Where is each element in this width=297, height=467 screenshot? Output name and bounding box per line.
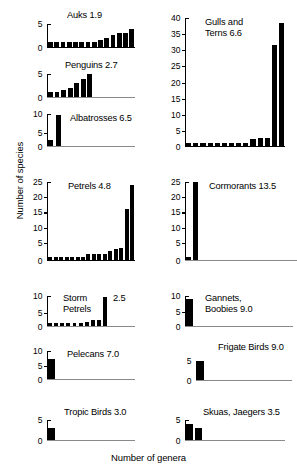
y-tick <box>182 197 186 198</box>
x-axis-line <box>185 440 285 441</box>
bar <box>123 33 128 47</box>
y-tick-label: 5 <box>187 357 192 366</box>
bar <box>104 38 109 47</box>
bar <box>60 323 64 326</box>
bar <box>92 42 97 47</box>
y-tick-label: 0 <box>38 94 43 103</box>
bar <box>117 33 122 47</box>
bar <box>193 143 198 146</box>
y-tick-label: 0 <box>176 257 181 266</box>
panel-petrels: Petrels 4.8 25 20 15 10 5 0 <box>47 182 135 261</box>
bar <box>279 23 284 146</box>
panel-title-skuas-jaegers: Skuas, Jaegers 3.5 <box>203 407 280 418</box>
x-axis-line <box>47 440 135 441</box>
bar <box>215 143 220 146</box>
y-tick-label: 0 <box>176 143 181 152</box>
x-axis-label: Number of genera <box>0 452 297 463</box>
bar <box>73 42 78 47</box>
bar <box>68 88 73 97</box>
y-tick-label: 5 <box>38 239 43 248</box>
bar <box>186 143 191 146</box>
bar <box>48 257 52 260</box>
y-tick <box>182 50 186 51</box>
x-axis-line <box>47 47 135 48</box>
panel-title-frigate-birds: Frigate Birds 9.0 <box>218 342 284 353</box>
panel-pelecans: Pelecans 7.0 10 5 0 <box>47 351 135 380</box>
bar <box>92 254 96 260</box>
bar <box>111 35 116 46</box>
y-tick <box>44 133 48 134</box>
bar <box>48 323 52 326</box>
bar <box>61 90 66 97</box>
y-tick-label: 20 <box>171 78 180 87</box>
bar <box>265 138 270 146</box>
bar <box>86 254 90 260</box>
y-tick-label: 5 <box>176 416 181 425</box>
y-tick-label: 0 <box>176 437 181 446</box>
bar <box>65 257 69 260</box>
plot-area-penguins: 5 0 <box>47 74 135 98</box>
y-tick-label: 10 <box>171 111 180 120</box>
x-axis-line <box>185 260 297 261</box>
seabird-species-per-genus-figure: Number of species Number of genera Auks … <box>0 0 297 467</box>
y-tick-label: 25 <box>171 62 180 71</box>
y-tick-label: 0 <box>38 257 43 266</box>
bar <box>48 359 55 378</box>
y-tick-label: 10 <box>33 110 42 119</box>
bar-group-petrels <box>48 182 134 260</box>
y-tick <box>182 34 186 35</box>
y-tick-label: 15 <box>33 208 42 217</box>
plot-area-auks: 5 0 <box>47 24 135 48</box>
y-tick-label: 5 <box>38 128 43 137</box>
y-tick <box>182 243 186 244</box>
bar <box>195 428 202 440</box>
y-tick-label: 0 <box>176 323 181 332</box>
plot-area-pelecans: 10 5 0 <box>47 351 135 380</box>
bar <box>54 257 58 260</box>
y-tick <box>182 312 186 313</box>
bar <box>250 139 255 145</box>
y-tick-label: 0 <box>38 44 43 53</box>
y-tick-label: 5 <box>38 70 43 79</box>
bar <box>91 320 95 325</box>
bar-group-tropic-birds <box>48 420 55 440</box>
plot-area-tropic-birds: 5 0 <box>47 420 135 441</box>
y-tick <box>182 228 186 229</box>
bar <box>222 143 227 146</box>
bar <box>79 323 83 326</box>
panel-title-penguins: Penguins 2.7 <box>65 60 117 71</box>
bar <box>85 322 89 326</box>
bar-group-gannets-boobies <box>186 296 193 326</box>
bar <box>200 143 205 146</box>
bar <box>87 74 92 97</box>
y-tick <box>44 228 48 229</box>
bar <box>56 115 61 145</box>
bar <box>48 428 55 440</box>
bar <box>208 143 213 146</box>
bar <box>129 29 134 47</box>
bar <box>236 143 241 146</box>
bar <box>103 254 107 260</box>
y-tick-label: 20 <box>171 193 180 202</box>
y-tick-label: 10 <box>33 223 42 232</box>
bar-group-penguins <box>48 74 92 97</box>
plot-area-cormorants: 25 20 15 10 5 0 <box>185 182 297 261</box>
y-tick-label: 40 <box>171 14 180 23</box>
bar-group-pelecans <box>48 351 55 379</box>
bar <box>81 257 85 260</box>
bar-group-skuas-jaegers <box>186 420 202 440</box>
bar <box>97 320 101 325</box>
bar <box>67 42 72 47</box>
y-tick-label: 5 <box>38 361 43 370</box>
y-tick <box>182 83 186 84</box>
y-tick <box>182 99 186 100</box>
bar <box>86 42 91 47</box>
y-tick <box>182 115 186 116</box>
panel-auks: Auks 1.9 5 0 <box>47 24 135 48</box>
bar <box>70 257 74 260</box>
bar <box>59 257 63 260</box>
plot-area-frigate-birds: 5 0 <box>196 361 292 381</box>
y-tick <box>182 212 186 213</box>
bar <box>186 257 191 260</box>
panel-gulls-and-terns: Gulls and Terns 6.6 40 35 30 25 20 15 10… <box>185 18 285 147</box>
